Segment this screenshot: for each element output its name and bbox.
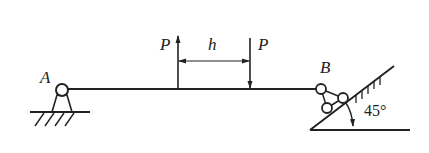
beam-diagram: A P P h B <box>0 0 429 153</box>
label-b: B <box>320 58 331 77</box>
label-a: A <box>39 68 51 87</box>
label-angle: 45° <box>364 102 386 119</box>
label-force-left: P <box>159 35 170 54</box>
incline-hatch <box>356 77 380 103</box>
ground-hatch-a <box>35 113 74 126</box>
diagram-svg: A P P h B <box>0 0 429 153</box>
pin-support-a <box>30 84 90 126</box>
angle-arc <box>346 103 353 126</box>
roller-support-b <box>316 84 348 113</box>
label-force-right: P <box>257 35 268 54</box>
label-distance: h <box>208 35 217 54</box>
